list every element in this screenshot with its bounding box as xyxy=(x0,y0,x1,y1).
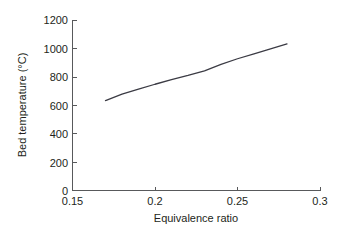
y-tick-label-200: 200 xyxy=(50,157,68,169)
y-tick-label-400: 400 xyxy=(50,128,68,140)
x-tick-label-0-15: 0.15 xyxy=(62,195,83,207)
y-tick-label-600: 600 xyxy=(50,100,68,112)
y-tick-label-1000: 1000 xyxy=(44,43,68,55)
x-tick-label-0-3: 0.3 xyxy=(312,195,327,207)
x-axis-title: Equivalence ratio xyxy=(154,212,238,224)
y-tick-label-1200: 1200 xyxy=(44,14,68,26)
line-chart: 1200 1000 800 600 400 200 0 0.15 0.2 0.2… xyxy=(0,0,342,230)
x-tick-label-0-25: 0.25 xyxy=(227,195,248,207)
chart-background xyxy=(0,0,342,230)
chart-figure: 1200 1000 800 600 400 200 0 0.15 0.2 0.2… xyxy=(0,0,342,230)
y-tick-label-800: 800 xyxy=(50,71,68,83)
y-axis-title: Bed temperature (°C) xyxy=(16,53,28,158)
x-tick-label-0-2: 0.2 xyxy=(147,195,162,207)
